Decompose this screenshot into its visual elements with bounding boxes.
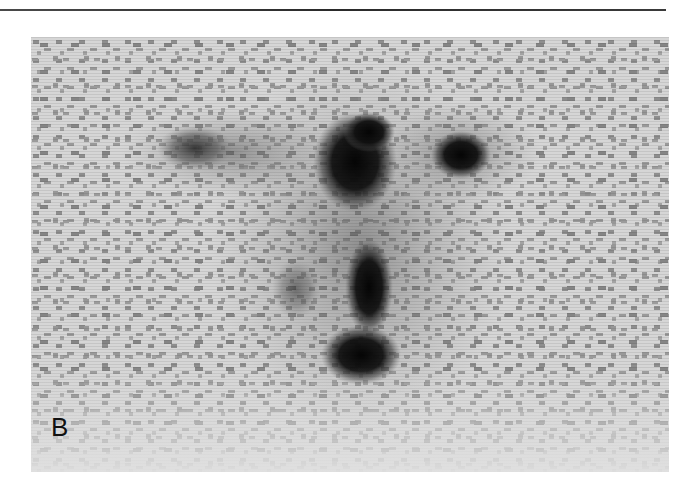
panel-label: B [51,414,68,440]
header-rule [0,9,666,11]
speckle-noise [31,37,669,472]
scintigraphy-image: B [31,37,669,472]
